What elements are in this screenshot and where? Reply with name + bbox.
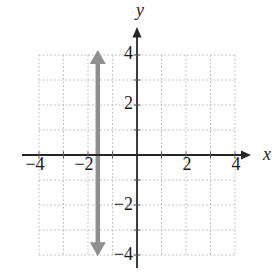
- x-tick-label: −4: [25, 154, 44, 174]
- x-tick-label: 2: [183, 154, 192, 174]
- vertical-line-arrowhead-down: [90, 242, 106, 256]
- y-axis-arrowhead: [133, 27, 142, 38]
- plot-svg: −4−22442−2−4xy: [0, 0, 279, 280]
- y-axis-label: y: [134, 0, 144, 20]
- axes: [22, 32, 243, 268]
- tick-labels: −4−22442−2−4: [25, 43, 240, 265]
- y-tick-label: 4: [124, 43, 133, 63]
- x-axis-label: x: [262, 144, 271, 164]
- y-tick-label: −2: [114, 194, 133, 214]
- y-tick-label: 2: [124, 93, 133, 113]
- coordinate-plane-figure: −4−22442−2−4xy: [0, 0, 279, 280]
- y-tick-label: −4: [114, 244, 133, 264]
- x-axis-arrowhead: [241, 151, 251, 160]
- x-tick-label: −2: [74, 154, 93, 174]
- vertical-line-arrowhead-up: [90, 50, 106, 64]
- x-tick-label: 4: [232, 154, 241, 174]
